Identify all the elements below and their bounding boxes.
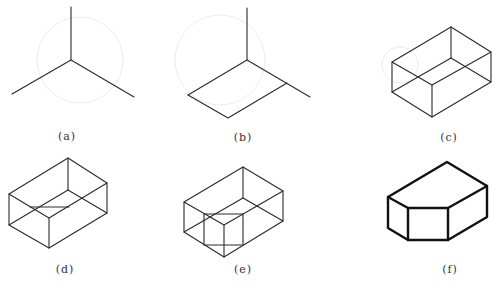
panel-f-final-solid	[388, 162, 487, 240]
panel-a-label: (a)	[58, 130, 76, 143]
panel-b-label: (b)	[234, 131, 253, 144]
panel-c-label: (c)	[440, 131, 458, 144]
panel-d-box-cut-line	[9, 158, 107, 248]
panel-d-label: (d)	[56, 263, 75, 276]
panel-e-box-cutout	[184, 167, 283, 257]
panel-e-label: (e)	[234, 263, 252, 276]
panel-c-box	[392, 27, 491, 117]
panel-b-rhombus	[188, 8, 310, 118]
panel-f-label: (f)	[442, 263, 458, 276]
isometric-construction-figure	[0, 0, 499, 288]
